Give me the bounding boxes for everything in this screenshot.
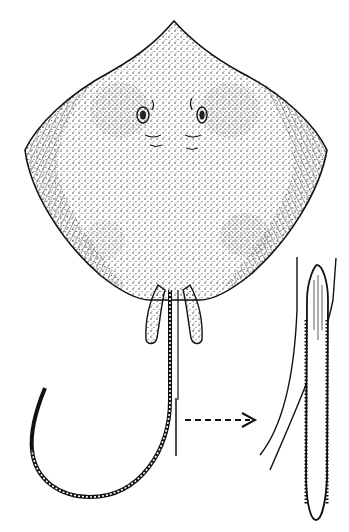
detail-arrow [185,413,255,427]
illustration-canvas [0,0,349,532]
disc [25,21,327,300]
spine-detail [260,257,336,520]
stingray-figure [0,0,349,532]
